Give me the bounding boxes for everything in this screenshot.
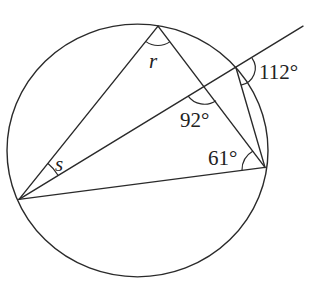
circle-geometry-diagram: r s 92° 61° 112° <box>0 0 311 301</box>
label-s: s <box>55 154 63 176</box>
angle-arc-61 <box>242 151 253 170</box>
label-r: r <box>149 50 158 72</box>
label-angle-92: 92° <box>180 109 209 131</box>
label-angle-61: 61° <box>208 147 237 169</box>
label-angle-112: 112° <box>259 62 298 84</box>
chord-left-top <box>19 26 158 199</box>
diagram-canvas: r s 92° 61° 112° <box>0 0 311 301</box>
angle-arc-r <box>146 42 170 46</box>
